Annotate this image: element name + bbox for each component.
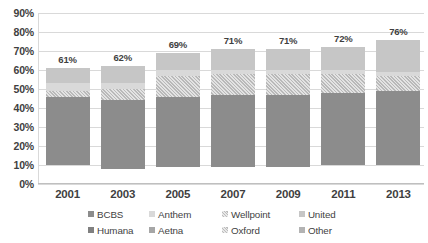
- bar-segment-united[interactable]: [101, 66, 145, 83]
- legend-item-oxford[interactable]: Oxford: [222, 225, 299, 236]
- bar-stack: [101, 66, 145, 184]
- bar-stack: [321, 47, 365, 184]
- bar-segment-united[interactable]: [156, 53, 200, 70]
- bar-segment-wellpoint[interactable]: [321, 74, 365, 93]
- x-axis-tick-label: 2003: [96, 188, 150, 200]
- x-axis-tick-label: 2001: [41, 188, 95, 200]
- x-axis-tick-label: 2013: [371, 188, 425, 200]
- bar-segment-wellpoint[interactable]: [101, 89, 145, 100]
- legend-label: Humana: [97, 225, 133, 236]
- bar-total-label: 72%: [317, 33, 369, 44]
- y-axis-tick-label: 10%: [0, 160, 34, 170]
- bar-total-label: 71%: [207, 35, 259, 46]
- bars-layer: 61%62%69%71%71%72%76%: [38, 13, 424, 184]
- legend-swatch-icon: [299, 211, 305, 217]
- y-axis-tick-label: 40%: [0, 103, 34, 113]
- x-axis-tick-label: 2007: [206, 188, 260, 200]
- legend-item-humana[interactable]: Humana: [88, 225, 149, 236]
- bar-stack: [266, 49, 310, 184]
- bar-segment-united[interactable]: [46, 68, 90, 83]
- legend-item-wellpoint[interactable]: Wellpoint: [222, 209, 299, 220]
- bar-segment-bcbs[interactable]: [376, 91, 420, 165]
- bar-total-label: 76%: [372, 26, 424, 37]
- legend-label: Other: [308, 225, 332, 236]
- bar-segment-bcbs[interactable]: [101, 100, 145, 168]
- legend-swatch-icon: [222, 227, 228, 233]
- plot-area: 61%62%69%71%71%72%76%: [38, 13, 424, 184]
- bar-segment-united[interactable]: [321, 47, 365, 70]
- legend-item-other[interactable]: Other: [299, 225, 358, 236]
- legend-row-bottom: HumanaAetnaOxfordOther: [88, 222, 358, 238]
- y-axis-tick-label: 30%: [0, 122, 34, 132]
- bar-segment-anthem[interactable]: [46, 83, 90, 91]
- legend-swatch-icon: [222, 211, 228, 217]
- bar-segment-wellpoint[interactable]: [266, 74, 310, 95]
- grid-line: [38, 184, 424, 185]
- legend-swatch-icon: [149, 211, 155, 217]
- legend-item-aetna[interactable]: Aetna: [149, 225, 222, 236]
- x-axis-tick-label: 2005: [151, 188, 205, 200]
- bar-segment-wellpoint[interactable]: [211, 74, 255, 95]
- legend-label: United: [308, 209, 336, 220]
- y-axis-tick-label: 80%: [0, 27, 34, 37]
- x-axis-tick-label: 2009: [261, 188, 315, 200]
- legend-row-top: BCBSAnthemWellpointUnited: [88, 206, 358, 222]
- legend-item-bcbs[interactable]: BCBS: [88, 209, 149, 220]
- y-axis-tick-label: 50%: [0, 84, 34, 94]
- legend-swatch-icon: [299, 227, 305, 233]
- y-axis-tick-label: 90%: [0, 8, 34, 18]
- bar-total-label: 69%: [152, 39, 204, 50]
- bar-segment-wellpoint[interactable]: [156, 76, 200, 97]
- legend-label: Anthem: [158, 209, 191, 220]
- x-axis-tick-label: 2011: [316, 188, 370, 200]
- legend-label: Aetna: [158, 225, 183, 236]
- bar-segment-bcbs[interactable]: [211, 95, 255, 167]
- bar-segment-bcbs[interactable]: [266, 95, 310, 167]
- legend-swatch-icon: [149, 227, 155, 233]
- stacked-bar-chart: 61%62%69%71%71%72%76% 90%80%70%60%50%40%…: [0, 0, 428, 243]
- bar-segment-bcbs[interactable]: [156, 97, 200, 167]
- legend-label: Wellpoint: [231, 209, 270, 220]
- legend-label: BCBS: [97, 209, 123, 220]
- legend-item-anthem[interactable]: Anthem: [149, 209, 222, 220]
- bar-stack: [376, 40, 420, 184]
- bar-segment-bcbs[interactable]: [321, 93, 365, 165]
- bar-total-label: 61%: [42, 54, 94, 65]
- legend-item-united[interactable]: United: [299, 209, 358, 220]
- bar-segment-united[interactable]: [266, 49, 310, 70]
- bar-total-label: 62%: [97, 52, 149, 63]
- y-axis-tick-label: 70%: [0, 46, 34, 56]
- bar-stack: [46, 68, 90, 184]
- bar-segment-bcbs[interactable]: [46, 97, 90, 165]
- bar-segment-united[interactable]: [376, 40, 420, 72]
- legend-swatch-icon: [88, 211, 94, 217]
- bar-stack: [211, 49, 255, 184]
- y-axis-tick-label: 60%: [0, 65, 34, 75]
- bar-stack: [156, 53, 200, 184]
- bar-total-label: 71%: [262, 35, 314, 46]
- bar-segment-wellpoint[interactable]: [376, 76, 420, 91]
- bar-segment-united[interactable]: [211, 49, 255, 70]
- y-axis-tick-label: 20%: [0, 141, 34, 151]
- legend-swatch-icon: [88, 227, 94, 233]
- y-axis-tick-label: 0%: [0, 179, 34, 189]
- legend-label: Oxford: [231, 225, 260, 236]
- chart-legend: BCBSAnthemWellpointUnited HumanaAetnaOxf…: [88, 206, 358, 238]
